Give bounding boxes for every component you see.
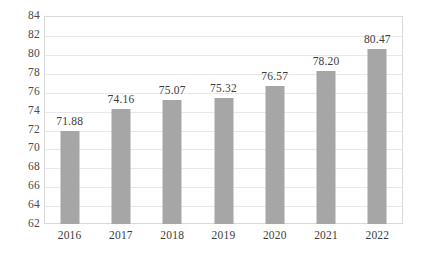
x-axis-tick-label: 2019 [212, 230, 236, 242]
y-axis-tick-label: 78 [10, 67, 40, 79]
y-axis-tick-label: 64 [10, 199, 40, 211]
x-axis-tick-label: 2017 [109, 230, 133, 242]
y-axis-tick-label: 66 [10, 180, 40, 192]
bar-value-label: 78.20 [313, 56, 340, 68]
x-axis-tick-label: 2020 [263, 230, 287, 242]
x-axis-tick-label: 2018 [160, 230, 184, 242]
bar [60, 131, 79, 224]
bar [163, 100, 182, 224]
bar [368, 49, 387, 224]
bar-value-label: 71.88 [56, 116, 83, 128]
bar-group: 74.16 [95, 16, 146, 224]
bar-value-label: 75.07 [159, 85, 186, 97]
y-axis-tick-label: 70 [10, 143, 40, 155]
x-axis-tick-label: 2021 [314, 230, 338, 242]
y-axis-tick-label: 72 [10, 124, 40, 136]
bar-group: 78.20 [300, 16, 351, 224]
bar-group: 75.32 [198, 16, 249, 224]
bar [265, 86, 284, 224]
bar-group: 76.57 [249, 16, 300, 224]
y-axis-tick-label: 76 [10, 86, 40, 98]
bars-layer: 71.8874.1675.0775.3276.5778.2080.47 [44, 16, 403, 224]
y-axis-tick-label: 84 [10, 10, 40, 22]
bar-group: 75.07 [147, 16, 198, 224]
bar-chart: 848280787674727068666462 71.8874.1675.07… [0, 0, 427, 262]
y-axis-tick-label: 68 [10, 162, 40, 174]
y-axis-tick-label: 62 [10, 218, 40, 230]
bar-group: 71.88 [44, 16, 95, 224]
y-axis-tick-label: 74 [10, 105, 40, 117]
x-axis-tick-label: 2022 [365, 230, 389, 242]
bar-value-label: 76.57 [261, 71, 288, 83]
y-axis-tick-label: 80 [10, 48, 40, 60]
bar-value-label: 74.16 [107, 94, 134, 106]
bar [214, 98, 233, 224]
bar-group: 80.47 [352, 16, 403, 224]
y-axis-tick-label: 82 [10, 29, 40, 41]
bar [111, 109, 130, 224]
bar [317, 71, 336, 224]
x-axis-tick-label: 2016 [58, 230, 82, 242]
bar-value-label: 75.32 [210, 83, 237, 95]
bar-value-label: 80.47 [364, 34, 391, 46]
y-axis: 848280787674727068666462 [8, 16, 40, 224]
x-axis: 2016201720182019202020212022 [44, 230, 403, 248]
